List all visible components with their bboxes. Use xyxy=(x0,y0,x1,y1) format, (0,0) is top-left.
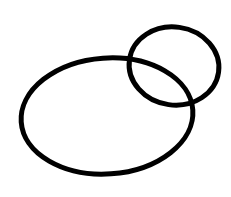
sketch-canvas xyxy=(0,0,231,197)
